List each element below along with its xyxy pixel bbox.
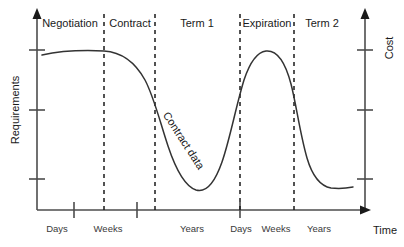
phase-label-contract: Contract xyxy=(109,17,151,29)
left-axis-arrow-icon xyxy=(33,8,42,19)
phase-label-negotiation: Negotiation xyxy=(42,17,98,29)
phase-label-expiration: Expiration xyxy=(243,17,292,29)
phase-label-term-1: Term 1 xyxy=(180,17,214,29)
right-axis-group xyxy=(357,8,373,212)
x-tick-label-weeks-1: Weeks xyxy=(94,223,123,234)
right-axis-arrow-icon xyxy=(361,8,370,19)
phase-label-term-2: Term 2 xyxy=(305,17,339,29)
x-tick-label-days-1: Days xyxy=(46,223,68,234)
right-axis-title: Cost xyxy=(383,37,395,60)
x-tick-label-years-2: Years xyxy=(307,223,331,234)
x-tick-label-years-1: Years xyxy=(180,223,204,234)
x-tick-label-weeks-2: Weeks xyxy=(262,223,291,234)
left-axis-group xyxy=(29,8,45,210)
contract-lifecycle-diagram: Negotiation Contract Term 1 Expiration T… xyxy=(0,0,404,247)
curve-annotation-contract-data: Contract data xyxy=(161,109,208,172)
bottom-axis-group xyxy=(37,202,371,218)
bottom-axis-title: Time xyxy=(373,224,397,236)
left-axis-title: Requirements xyxy=(9,75,21,144)
phase-dividers-group xyxy=(104,14,294,210)
x-tick-label-days-2: Days xyxy=(230,223,252,234)
